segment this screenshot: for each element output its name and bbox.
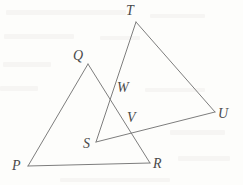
segment-tu [136,22,215,112]
vertex-label-w: W [117,81,129,95]
vertex-label-v: V [127,111,136,125]
vertex-label-t: T [126,4,134,18]
vertex-label-p: P [12,159,21,173]
geometry-figure: P Q R S T U V W [0,0,243,185]
vertex-label-r: R [153,157,162,171]
triangle-stu [96,22,215,142]
segment-qr [88,64,150,163]
segment-su [96,112,215,142]
vertex-label-u: U [218,107,228,121]
segment-pr [28,163,150,166]
segment-pq [28,64,88,166]
vertex-label-s: S [83,137,90,151]
vertex-label-q: Q [73,49,83,63]
